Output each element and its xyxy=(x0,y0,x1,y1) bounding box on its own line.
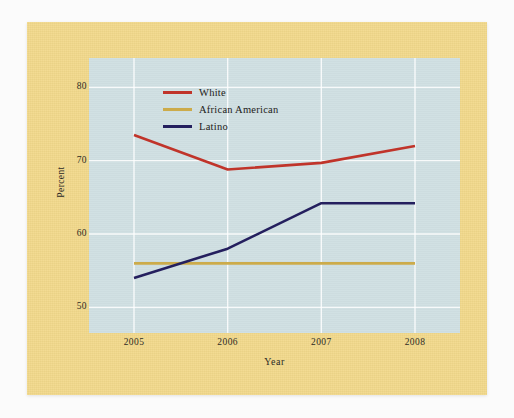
x-tick-label: 2008 xyxy=(405,337,426,347)
x-axis-title: Year xyxy=(89,356,460,367)
legend-swatch-icon xyxy=(163,108,192,111)
y-axis-title: Percent xyxy=(56,142,66,222)
y-tick-label: 60 xyxy=(61,228,87,238)
legend-item: White xyxy=(163,84,353,101)
legend-label: African American xyxy=(199,104,279,115)
chart-page: 50607080 2005200620072008 Year Percent W… xyxy=(27,22,487,395)
legend-swatch-icon xyxy=(163,91,192,94)
legend-swatch-icon xyxy=(163,125,192,128)
legend-label: Latino xyxy=(199,121,228,132)
legend-label: White xyxy=(199,87,226,98)
series-line-latino xyxy=(134,203,415,278)
series-line-white xyxy=(134,135,415,169)
y-tick-label: 80 xyxy=(61,81,87,91)
x-tick-label: 2007 xyxy=(311,337,332,347)
legend-item: Latino xyxy=(163,118,353,135)
x-tick-label: 2005 xyxy=(124,337,145,347)
x-tick-label: 2006 xyxy=(217,337,238,347)
x-axis-ticks: 2005200620072008 xyxy=(89,337,460,353)
legend-item: African American xyxy=(163,101,353,118)
y-tick-label: 50 xyxy=(61,301,87,311)
series-lines xyxy=(134,135,415,278)
chart-legend: WhiteAfrican AmericanLatino xyxy=(163,84,353,135)
